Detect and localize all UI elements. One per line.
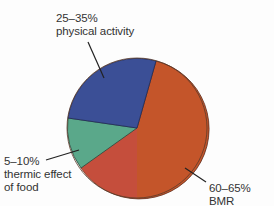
label-thermic-name-1: thermic effect [4,168,71,181]
label-bmr-text: 60–65% BMR [209,182,274,206]
label-thermic-effect: 5–10% thermic effect of food [4,155,71,194]
label-thermic-range: 5–10% [4,155,71,168]
label-thermic-name-2: of food [4,181,71,194]
label-activity-name: physical activity [56,25,134,38]
label-activity-range: 25–35% [56,12,134,25]
label-physical-activity: 25–35% physical activity [56,12,134,38]
label-bmr: 60–65% BMR [209,182,274,206]
